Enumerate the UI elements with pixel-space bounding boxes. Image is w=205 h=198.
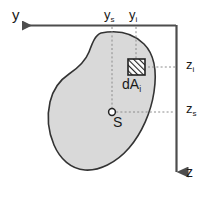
z-axis-label: z bbox=[186, 165, 193, 179]
label-y-s: ys bbox=[104, 8, 115, 21]
label-z-s-sub: s bbox=[193, 109, 197, 118]
label-y-s-base: y bbox=[104, 7, 111, 22]
figure-svg bbox=[0, 0, 205, 198]
label-centroid-S: S bbox=[113, 115, 122, 129]
label-y-i: yi bbox=[129, 8, 137, 21]
y-axis-label: y bbox=[12, 7, 20, 22]
label-y-s-sub: s bbox=[111, 15, 115, 24]
label-dA-i-base: dA bbox=[122, 76, 139, 92]
blob-cross-section bbox=[48, 32, 155, 170]
label-dA-i: dAi bbox=[122, 77, 141, 91]
label-z-i: zi bbox=[186, 58, 194, 71]
label-z-s-base: z bbox=[186, 101, 193, 116]
label-z-i-base: z bbox=[186, 57, 193, 72]
area-element-square bbox=[128, 59, 145, 75]
label-dA-i-sub: i bbox=[139, 84, 141, 94]
figure-canvas: y z ys yi zi zs dAi S bbox=[0, 0, 205, 198]
label-y-i-base: y bbox=[129, 7, 136, 22]
label-z-s: zs bbox=[186, 102, 197, 115]
